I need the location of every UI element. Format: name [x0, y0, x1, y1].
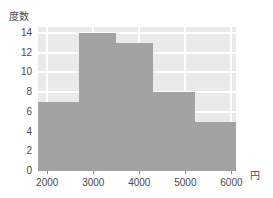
y-axis-tick-label: 14: [21, 28, 32, 38]
histogram-bar: [79, 33, 116, 171]
x-axis-tick-label: 2000: [36, 178, 58, 188]
y-axis-tick-label: 12: [21, 48, 32, 58]
x-axis-tick-label: 3000: [82, 178, 104, 188]
x-axis-tick-mark: [47, 171, 48, 174]
histogram-bar: [153, 92, 194, 171]
y-axis-tick-label: 2: [26, 146, 32, 156]
x-axis-tick-mark: [93, 171, 94, 174]
x-axis-tick-label: 4000: [128, 178, 150, 188]
y-axis-tick-label: 6: [26, 107, 32, 117]
histogram-bar: [116, 43, 153, 171]
x-axis-tick-label: 5000: [174, 178, 196, 188]
y-axis-label: 度数: [9, 11, 29, 23]
x-axis-unit-label: 円: [250, 170, 260, 182]
y-axis-tick-label: 0: [26, 166, 32, 176]
bar-series: [38, 27, 236, 171]
histogram-bar: [38, 102, 79, 171]
y-axis-tick-label: 10: [21, 67, 32, 77]
x-axis-tick-mark: [139, 171, 140, 174]
histogram-figure: 度数 0246810121420003000400050006000 円: [0, 0, 273, 198]
x-axis-tick-mark: [231, 171, 232, 174]
plot-area: 0246810121420003000400050006000: [38, 27, 236, 171]
x-axis-tick-label: 6000: [220, 178, 242, 188]
histogram-bar: [195, 122, 236, 171]
y-axis-tick-label: 8: [26, 87, 32, 97]
y-axis-tick-label: 4: [26, 127, 32, 137]
x-axis-tick-mark: [185, 171, 186, 174]
